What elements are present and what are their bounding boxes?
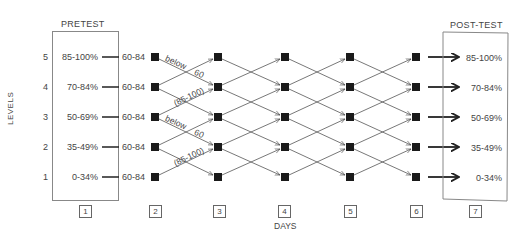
- day-4-box: 4: [278, 205, 291, 218]
- day-2-box: 2: [149, 205, 162, 218]
- progression-network: [0, 0, 531, 238]
- node-grid: [151, 53, 420, 181]
- posttest-range-1: 0-34%: [462, 173, 502, 183]
- pretest-connectors: [102, 57, 119, 177]
- posttest-range-4: 70-84%: [462, 83, 502, 93]
- posttest-title: POST-TEST: [450, 20, 503, 30]
- days-axis-label: DAYS: [274, 221, 297, 231]
- posttest-range-3: 50-69%: [462, 113, 502, 123]
- day-3-box: 3: [213, 205, 226, 218]
- day-5-box: 5: [344, 205, 357, 218]
- day-6-box: 6: [410, 205, 423, 218]
- day-1-box: 1: [79, 205, 92, 218]
- posttest-range-2: 35-49%: [462, 143, 502, 153]
- posttest-range-5: 85-100%: [462, 53, 502, 63]
- day-7-box: 7: [469, 205, 482, 218]
